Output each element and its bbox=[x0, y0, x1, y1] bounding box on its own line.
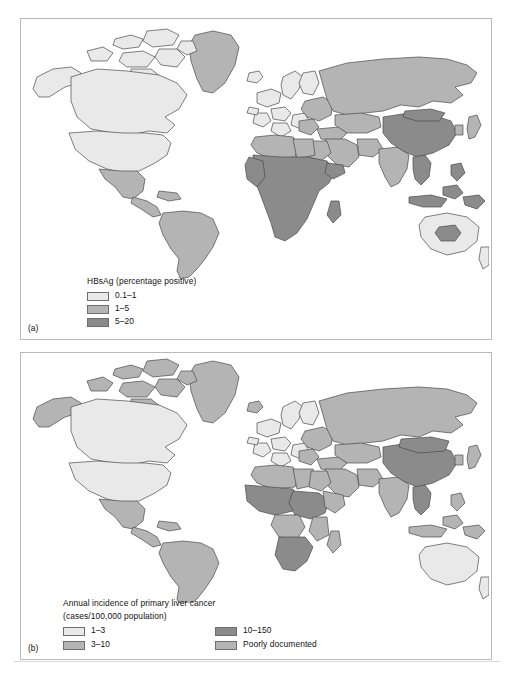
legend-label-mid: 3–10 bbox=[91, 639, 110, 650]
legend-a-title: HBsAg (percentage positive) bbox=[87, 276, 196, 287]
region-congo-basin bbox=[271, 515, 305, 539]
region-iceland bbox=[247, 401, 263, 413]
region-egypt bbox=[309, 471, 331, 491]
region-mexico bbox=[99, 169, 145, 199]
region-russia bbox=[319, 387, 477, 445]
region-japan bbox=[467, 115, 481, 139]
region-central-america bbox=[131, 197, 161, 217]
legend-swatch-undocumented bbox=[215, 641, 237, 650]
panel-letter-b: (b) bbox=[28, 643, 38, 653]
region-canada bbox=[71, 69, 187, 135]
legend-item: 1–5 bbox=[87, 303, 196, 315]
world-map-b bbox=[27, 355, 489, 603]
legend-item: 1–3 bbox=[63, 625, 215, 637]
region-east-africa-south bbox=[309, 517, 329, 541]
legend-b-items: 1–3 10–150 3–10 Poorly documented bbox=[63, 625, 317, 651]
panel-letter-a: (a) bbox=[28, 323, 38, 333]
region-iceland bbox=[247, 71, 263, 83]
legend-b: Annual incidence of primary liver cancer… bbox=[63, 598, 317, 652]
region-southeast-asia bbox=[413, 485, 431, 515]
region-united-states bbox=[69, 131, 171, 173]
region-greenland bbox=[189, 31, 239, 93]
legend-label-undocumented: Poorly documented bbox=[243, 639, 317, 650]
legend-label-high: 10–150 bbox=[243, 625, 272, 636]
region-new-zealand bbox=[479, 247, 489, 269]
region-madagascar bbox=[327, 201, 341, 223]
page-divider bbox=[14, 661, 500, 662]
region-papua-new-guinea bbox=[463, 195, 485, 209]
map-b-stage: Annual incidence of primary liver cancer… bbox=[21, 353, 491, 659]
region-greenland bbox=[189, 361, 239, 423]
legend-swatch-low bbox=[87, 292, 109, 301]
region-philippines bbox=[451, 163, 465, 181]
region-sub-saharan-africa bbox=[253, 155, 335, 241]
legend-b-subtitle: (cases/100,000 population) bbox=[63, 611, 317, 622]
map-panel-a: HBsAg (percentage positive) 0.1–1 1–5 5–… bbox=[20, 18, 492, 340]
region-south-america bbox=[159, 211, 219, 279]
region-papua-new-guinea bbox=[463, 525, 485, 539]
legend-item: 0.1–1 bbox=[87, 290, 196, 302]
region-southeast-asia bbox=[413, 155, 431, 185]
region-borneo bbox=[443, 185, 463, 199]
world-map-a bbox=[27, 21, 489, 283]
region-australia-interior bbox=[435, 225, 461, 241]
region-korea bbox=[455, 125, 463, 135]
region-central-america bbox=[131, 527, 161, 547]
region-indonesia bbox=[409, 195, 447, 207]
legend-swatch-mid bbox=[87, 305, 109, 314]
region-balkans bbox=[299, 119, 319, 135]
legend-item: 5–20 bbox=[87, 316, 196, 328]
legend-a: HBsAg (percentage positive) 0.1–1 1–5 5–… bbox=[87, 276, 196, 329]
legend-item: Poorly documented bbox=[215, 639, 317, 651]
legend-a-items: 0.1–1 1–5 5–20 bbox=[87, 290, 196, 328]
legend-label-mid: 1–5 bbox=[115, 303, 129, 314]
legend-swatch-low bbox=[63, 627, 85, 636]
region-japan bbox=[467, 445, 481, 469]
region-canada bbox=[71, 399, 187, 465]
legend-item: 3–10 bbox=[63, 639, 215, 651]
region-northwest-africa bbox=[251, 465, 299, 489]
region-india bbox=[379, 477, 409, 517]
legend-swatch-mid bbox=[63, 641, 85, 650]
map-a-stage: HBsAg (percentage positive) 0.1–1 1–5 5–… bbox=[21, 19, 491, 339]
region-caribbean bbox=[157, 521, 181, 531]
legend-swatch-high bbox=[215, 627, 237, 636]
region-libya bbox=[293, 139, 315, 159]
region-central-asia bbox=[335, 443, 381, 463]
legend-label-low: 0.1–1 bbox=[115, 290, 136, 301]
region-indonesia bbox=[409, 525, 447, 537]
region-united-states bbox=[69, 461, 171, 503]
region-borneo bbox=[443, 515, 463, 529]
region-new-zealand bbox=[479, 577, 489, 599]
region-korea bbox=[455, 455, 463, 465]
legend-label-low: 1–3 bbox=[91, 625, 105, 636]
region-mexico bbox=[99, 499, 145, 529]
region-finland bbox=[299, 71, 319, 95]
legend-label-high: 5–20 bbox=[115, 316, 134, 327]
region-australia bbox=[419, 543, 479, 585]
region-south-america bbox=[159, 541, 219, 603]
legend-swatch-high bbox=[87, 318, 109, 327]
figure-page: HBsAg (percentage positive) 0.1–1 1–5 5–… bbox=[0, 0, 514, 677]
region-balkans bbox=[299, 449, 319, 465]
region-philippines bbox=[451, 493, 465, 511]
map-panel-b: Annual incidence of primary liver cancer… bbox=[20, 352, 492, 660]
legend-b-title: Annual incidence of primary liver cancer bbox=[63, 598, 317, 609]
region-caribbean bbox=[157, 191, 181, 201]
region-southern-africa bbox=[275, 537, 313, 571]
region-central-asia bbox=[335, 113, 381, 133]
region-finland bbox=[299, 401, 319, 425]
region-india bbox=[379, 147, 409, 187]
legend-item: 10–150 bbox=[215, 625, 317, 637]
region-russia bbox=[319, 57, 477, 115]
